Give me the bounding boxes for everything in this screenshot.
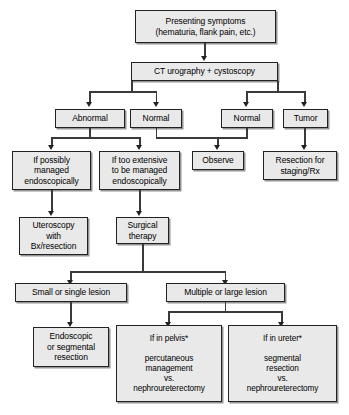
arrow-possibly-to-uteroscopy [48,211,54,216]
edge-tumor-to-resection [304,128,306,146]
node-small-single-lesion: Small or single lesion [15,283,127,302]
edge-abnormal-bar [51,137,140,139]
node-uteroscopy: Uteroscopy with Bx/resection [19,217,88,255]
edge-ct-left-bar [89,91,157,93]
node-resection-staging: Resection for staging/Rx [263,151,337,180]
arrow-normal-left-to-observe [214,145,220,150]
node-normal-right: Normal [221,109,273,128]
edge-ct-right-bar [246,91,305,93]
arrow-symptoms-to-ct [201,56,207,61]
edge-surgical-bar [70,271,226,273]
node-if-in-pelvis: If in pelvis* percutaneous management vs… [116,325,222,402]
node-tumor: Tumor [283,109,328,128]
edge-normal-left-bar [156,137,219,139]
edge-symptoms-to-ct [204,43,206,57]
node-normal-left: Normal [130,109,182,128]
arrow-tumor-to-resection [301,145,307,150]
node-ct-urography: CT urography + cystoscopy [131,62,278,81]
arrow-ct-to-tumor [301,102,307,107]
node-if-in-ureter: If in ureter* segmental resection vs. ne… [228,325,337,402]
arrow-ct-to-normal-left [153,102,159,107]
arrow-abnormal-to-possibly [48,145,54,150]
node-observe: Observe [192,151,244,170]
node-multiple-large-lesion: Multiple or large lesion [166,283,285,302]
node-endoscopic-segmental-resection: Endoscopic or segmental resection [33,327,109,367]
edge-extensive-to-surgical [139,190,141,212]
arrow-ct-to-abnormal [86,102,92,107]
node-surgical-therapy: Surgical therapy [116,217,169,244]
node-if-possibly-managed: If possibly managed endoscopically [12,151,91,190]
edge-multiple-bar [168,311,282,313]
arrow-extensive-to-surgical [136,211,142,216]
node-abnormal: Abnormal [55,109,125,128]
node-if-too-extensive: If too extensive to be managed endoscopi… [99,151,180,190]
edge-surgical-trunk [142,244,144,272]
edge-small-to-endoscopic [70,302,72,323]
edge-possibly-to-uteroscopy [51,190,53,212]
edge-normal-right-to-observe [246,128,248,137]
arrow-abnormal-to-extensive [136,145,142,150]
node-presenting-symptoms: Presenting symptoms (hematuria, flank pa… [135,10,276,43]
flowchart-diagram: Presenting symptoms (hematuria, flank pa… [0,0,349,415]
arrow-ct-to-normal-right [243,102,249,107]
edge-normal-right-bar [217,137,248,139]
